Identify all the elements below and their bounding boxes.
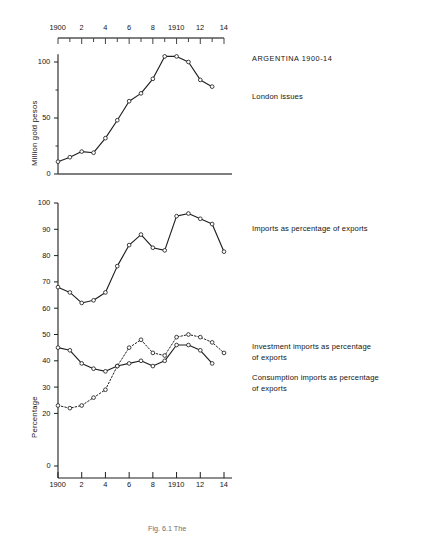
series-line-london-issues [58, 56, 212, 161]
data-point-consumption [210, 362, 214, 366]
data-point-imports [104, 291, 108, 295]
data-point-consumption [56, 346, 60, 350]
top-axis-tick-label: 4 [103, 23, 107, 32]
data-point-investment [104, 388, 108, 392]
chart2-y-tick-label: 50 [42, 330, 50, 339]
chart2-y-tick-label: 30 [42, 383, 50, 392]
bottom-axis-tick-label: 14 [220, 480, 228, 489]
legend-consumption-imports-line2: of exports [252, 383, 287, 394]
top-axis-tick-label: 1910 [168, 23, 184, 32]
figure-title: ARGENTINA 1900-14 [252, 54, 332, 65]
top-axis-tick-label: 1900 [49, 23, 65, 32]
data-point-imports [175, 214, 179, 218]
chart-canvas [0, 0, 423, 533]
chart2-y-tick-label: 90 [42, 225, 50, 234]
series-line-investment [58, 335, 224, 409]
data-point-investment [222, 351, 226, 355]
data-point-imports [210, 222, 214, 226]
data-point-investment [210, 341, 214, 345]
chart2-y-tick-label: 70 [42, 277, 50, 286]
chart2-y-axis-title: Percentage [30, 396, 39, 438]
top-axis-tick-label: 8 [151, 23, 155, 32]
data-point-investment [56, 404, 60, 408]
data-point-consumption [80, 362, 84, 366]
bottom-axis-tick-label: 2 [80, 480, 84, 489]
bottom-axis-tick-label: 6 [127, 480, 131, 489]
data-point-investment [163, 354, 167, 358]
data-point-imports [115, 264, 119, 268]
series-line-imports [58, 214, 224, 303]
figure-root: 1900246819101214 1900246819101214 050100… [0, 0, 423, 533]
data-point-imports [163, 248, 167, 252]
data-point-investment [151, 351, 155, 355]
chart1-y-tick-label: 0 [47, 169, 51, 178]
data-point-london-issues [68, 155, 72, 159]
bottom-axis-tick-label: 8 [151, 480, 155, 489]
data-point-consumption [104, 369, 108, 373]
data-point-london-issues [80, 150, 84, 154]
data-point-london-issues [175, 55, 179, 59]
data-point-imports [127, 243, 131, 247]
data-point-imports [198, 217, 202, 221]
data-point-london-issues [56, 160, 60, 164]
bottom-axis-tick-label: 4 [103, 480, 107, 489]
data-point-london-issues [187, 60, 191, 64]
data-point-investment [115, 364, 119, 368]
data-point-imports [80, 301, 84, 305]
series-line-consumption [58, 345, 212, 371]
legend-london-issues: London issues [252, 91, 303, 102]
data-point-imports [92, 298, 96, 302]
data-point-london-issues [115, 118, 119, 122]
data-point-imports [222, 250, 226, 254]
data-point-imports [139, 233, 143, 237]
legend-investment-imports-line2: of exports [252, 352, 287, 363]
data-point-london-issues [151, 77, 155, 81]
legend-consumption-imports-line1: Consumption imports as percentage [252, 372, 379, 383]
data-point-london-issues [163, 55, 167, 59]
data-point-consumption [187, 343, 191, 347]
data-point-london-issues [198, 78, 202, 82]
data-point-consumption [163, 359, 167, 363]
data-point-imports [56, 285, 60, 289]
data-point-investment [92, 396, 96, 400]
top-axis-tick-label: 6 [127, 23, 131, 32]
data-point-london-issues [104, 136, 108, 140]
data-point-investment [80, 404, 84, 408]
data-point-investment [68, 406, 72, 410]
data-point-london-issues [139, 92, 143, 96]
chart1-y-tick-label: 100 [38, 57, 50, 66]
legend-investment-imports-line1: Investment imports as percentage [252, 341, 371, 352]
chart2-y-tick-label: 80 [42, 251, 50, 260]
data-point-imports [68, 291, 72, 295]
chart1-y-axis-title: Million gold pesos [30, 100, 39, 166]
data-point-consumption [151, 364, 155, 368]
chart2-y-tick-label: 100 [38, 198, 50, 207]
chart2-y-tick-label: 60 [42, 304, 50, 313]
data-point-investment [187, 333, 191, 337]
top-axis-tick-label: 14 [220, 23, 228, 32]
data-point-imports [187, 212, 191, 216]
data-point-consumption [92, 367, 96, 371]
data-point-investment [127, 346, 131, 350]
data-point-consumption [68, 348, 72, 352]
chart1-y-tick-label: 50 [42, 113, 50, 122]
data-point-consumption [175, 343, 179, 347]
data-point-investment [175, 335, 179, 339]
bottom-axis-tick-label: 1910 [168, 480, 184, 489]
top-axis-tick-label: 12 [196, 23, 204, 32]
bottom-axis-tick-label: 1900 [49, 480, 65, 489]
data-point-investment [198, 335, 202, 339]
data-point-london-issues [127, 99, 131, 103]
legend-imports-pct-exports: Imports as percentage of exports [252, 223, 368, 234]
bottom-axis-tick-label: 12 [196, 480, 204, 489]
data-point-investment [139, 338, 143, 342]
figure-caption: Fig. 6.1 The [148, 524, 186, 533]
chart2-y-tick-label: 40 [42, 356, 50, 365]
top-axis-tick-label: 2 [80, 23, 84, 32]
data-point-imports [151, 246, 155, 250]
chart2-y-tick-label: 20 [42, 409, 50, 418]
data-point-consumption [127, 362, 131, 366]
data-point-consumption [198, 348, 202, 352]
data-point-consumption [139, 359, 143, 363]
data-point-london-issues [92, 151, 96, 155]
